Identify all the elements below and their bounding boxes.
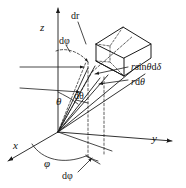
- rdtheta-label: rdθ: [131, 77, 145, 87]
- dr-label: dr: [71, 11, 79, 21]
- dphi-arc-upper: [56, 50, 88, 62]
- spherical-coordinates-diagram: z y x dr dφ dθ θ φ dφ rsinθdδ rdθ: [0, 0, 186, 188]
- rsintheta-sin: sin: [135, 61, 147, 72]
- dtheta-label: dθ: [74, 91, 84, 101]
- dphi-top-label: dφ: [59, 36, 70, 46]
- dphi-bottom-label: dφ: [62, 171, 73, 181]
- phi-arc: [32, 144, 86, 160]
- rsintheta-delta: δ: [157, 61, 162, 72]
- phi-label: φ: [44, 158, 50, 169]
- rsintheta-ddelta-label: rsinθdδ: [131, 62, 161, 72]
- theta-label: θ: [56, 96, 61, 107]
- dr-guide-line: [92, 36, 133, 72]
- axis-y-label: y: [152, 133, 157, 144]
- axis-z-label: z: [40, 22, 44, 33]
- diagram-canvas: [0, 0, 186, 188]
- axis-x-label: x: [13, 140, 18, 151]
- rdtheta-theta: θ: [140, 76, 145, 87]
